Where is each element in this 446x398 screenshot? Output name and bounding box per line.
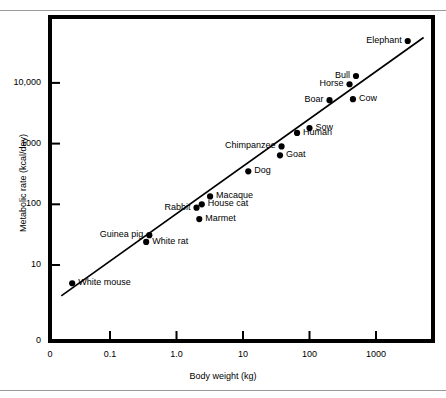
y-tick-label-1: 10 <box>0 259 41 269</box>
regression-line <box>61 37 423 295</box>
data-point <box>245 168 251 174</box>
data-point <box>405 38 411 44</box>
point-label-rabbit: Rabbit <box>165 202 191 212</box>
y-tick-label-4: 10,000 <box>0 77 41 87</box>
data-point <box>278 143 284 149</box>
data-point <box>143 239 149 245</box>
x-axis-title: Body weight (kg) <box>0 371 446 381</box>
data-point <box>326 97 332 103</box>
point-label-horse: Horse <box>320 78 344 88</box>
point-label-dog: Dog <box>254 165 271 175</box>
point-label-goat: Goat <box>286 149 306 159</box>
point-label-chimpanzee: Chimpanzee <box>225 140 276 150</box>
x-tick-label-2: 1.0 <box>147 349 207 359</box>
point-label-cow: Cow <box>359 93 377 103</box>
fit-line <box>61 37 423 295</box>
point-label-house-cat: House cat <box>208 198 249 208</box>
x-tick-label-5: 1000 <box>346 349 406 359</box>
data-point <box>277 152 283 158</box>
data-point <box>199 201 205 207</box>
x-tick-label-4: 100 <box>280 349 340 359</box>
data-points <box>69 38 411 286</box>
y-tick-label-2: 100 <box>0 198 41 208</box>
point-label-human: Human <box>303 127 332 137</box>
figure-container: Body weight (kg) Metabolic rate (kcal/da… <box>0 0 446 398</box>
data-point <box>294 130 300 136</box>
point-label-boar: Boar <box>305 94 324 104</box>
y-axis-ticks <box>52 83 60 265</box>
y-tick-label-0: 0 <box>0 335 41 345</box>
data-point <box>196 216 202 222</box>
y-tick-label-3: 1000 <box>0 138 41 148</box>
x-axis-ticks <box>110 331 376 339</box>
data-point <box>350 96 356 102</box>
point-label-white-rat: White rat <box>152 236 188 246</box>
x-tick-label-3: 10 <box>213 349 273 359</box>
point-label-guinea-pig: Guinea pig <box>100 229 144 239</box>
data-point <box>69 280 75 286</box>
point-label-marmet: Marmet <box>205 213 236 223</box>
plot-frame <box>50 17 433 341</box>
x-tick-label-0: 0 <box>20 349 80 359</box>
data-point <box>193 205 199 211</box>
point-label-elephant: Elephant <box>366 35 402 45</box>
data-point <box>353 73 359 79</box>
data-point <box>346 81 352 87</box>
x-tick-label-1: 0.1 <box>80 349 140 359</box>
y-axis-title: Metabolic rate (kcal/day) <box>18 113 28 253</box>
point-label-white-mouse: White mouse <box>78 277 131 287</box>
